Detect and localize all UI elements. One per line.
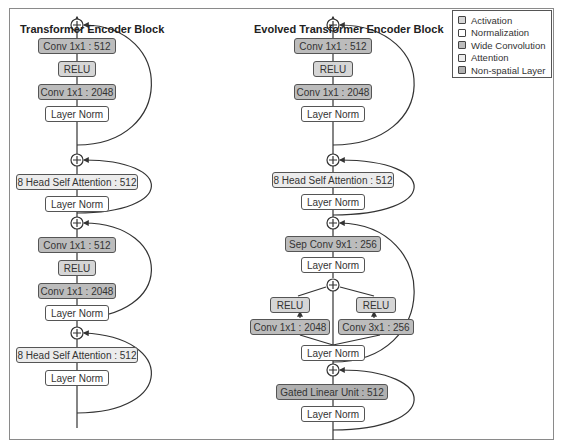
- layer-self-attention: 8 Head Self Attention : 512: [16, 347, 138, 363]
- legend-item-activation: Activation: [458, 14, 551, 27]
- layer-norm: Layer Norm: [301, 257, 365, 273]
- layer-conv1x1-2048-branch: Conv 1x1 : 2048: [250, 319, 330, 335]
- layer-norm: Layer Norm: [301, 194, 365, 210]
- layer-conv1x1-512: Conv 1x1 : 512: [294, 38, 372, 54]
- layer-conv1x1-512: Conv 1x1 : 512: [38, 38, 116, 54]
- layer-conv1x1-512: Conv 1x1 : 512: [38, 237, 116, 253]
- layer-norm: Layer Norm: [301, 406, 365, 422]
- layer-self-attention: 8 Head Self Attention : 512: [16, 174, 138, 190]
- layer-norm: Layer Norm: [45, 305, 109, 321]
- right-block-title: Evolved Transformer Encoder Block: [254, 23, 444, 35]
- layer-relu: RELU: [313, 61, 353, 77]
- left-block-title: Transformer Encoder Block: [20, 23, 164, 35]
- layer-relu: RELU: [58, 61, 96, 77]
- layer-norm: Layer Norm: [45, 196, 109, 212]
- legend-item-wide-convolution: Wide Convolution: [458, 39, 551, 52]
- layer-relu-right-branch: RELU: [356, 297, 396, 313]
- swatch-icon: [458, 29, 466, 37]
- layer-norm: Layer Norm: [45, 106, 109, 122]
- layer-norm: Layer Norm: [301, 106, 365, 122]
- swatch-icon: [458, 54, 466, 62]
- layer-conv1x1-2048: Conv 1x1 : 2048: [294, 84, 372, 100]
- layer-sep-conv-9x1: Sep Conv 9x1 : 256: [285, 236, 381, 252]
- legend-item-non-spatial: Non-spatial Layer: [458, 64, 551, 77]
- legend-item-attention: Attention: [458, 52, 551, 65]
- swatch-icon: [458, 16, 466, 24]
- layer-self-attention: 8 Head Self Attention : 512: [272, 172, 394, 188]
- swatch-icon: [458, 41, 466, 49]
- layer-conv1x1-2048: Conv 1x1 : 2048: [38, 84, 116, 100]
- layer-conv3x1-256-branch: Conv 3x1 : 256: [338, 319, 414, 335]
- legend: Activation Normalization Wide Convolutio…: [452, 10, 552, 78]
- layer-conv1x1-2048: Conv 1x1 : 2048: [38, 283, 116, 299]
- layer-relu: RELU: [58, 260, 96, 276]
- layer-norm: Layer Norm: [301, 345, 365, 361]
- layer-norm: Layer Norm: [45, 370, 109, 386]
- swatch-icon: [458, 66, 466, 74]
- legend-item-normalization: Normalization: [458, 27, 551, 40]
- layer-gated-linear-unit: Gated Linear Unit : 512: [276, 384, 388, 400]
- layer-relu-left-branch: RELU: [270, 297, 310, 313]
